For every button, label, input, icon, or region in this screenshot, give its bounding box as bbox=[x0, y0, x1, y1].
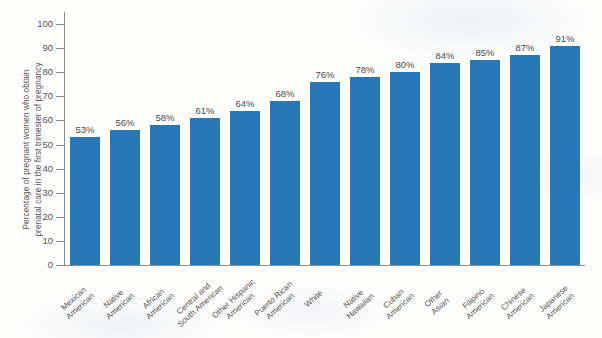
bar-value-label: 80% bbox=[395, 59, 414, 70]
bar[interactable] bbox=[230, 111, 260, 265]
bar-group[interactable]: 91% bbox=[550, 12, 580, 265]
y-tick-label: 100 bbox=[37, 18, 53, 29]
y-tick-label: 30 bbox=[42, 187, 53, 198]
x-axis-line bbox=[64, 265, 585, 266]
y-tick-label: 40 bbox=[42, 163, 53, 174]
bar-value-label: 85% bbox=[475, 47, 494, 58]
y-tick-label: 90 bbox=[42, 42, 53, 53]
y-tick-label: 80 bbox=[42, 66, 53, 77]
bar-group[interactable]: 85% bbox=[470, 12, 500, 265]
plot-area: 0102030405060708090100 53%56%58%61%64%68… bbox=[65, 12, 585, 265]
bar-group[interactable]: 64% bbox=[230, 12, 260, 265]
y-tick-mark bbox=[56, 72, 65, 73]
bar-group[interactable]: 80% bbox=[390, 12, 420, 265]
y-tick-label: 60 bbox=[42, 114, 53, 125]
y-tick-label: 70 bbox=[42, 90, 53, 101]
bar[interactable] bbox=[150, 125, 180, 265]
bar-group[interactable]: 58% bbox=[150, 12, 180, 265]
bar-value-label: 84% bbox=[435, 50, 454, 61]
y-tick-label: 20 bbox=[42, 211, 53, 222]
bar-value-label: 58% bbox=[155, 112, 174, 123]
y-tick-mark bbox=[56, 241, 65, 242]
y-tick-mark bbox=[56, 96, 65, 97]
y-tick-mark bbox=[56, 217, 65, 218]
bar-value-label: 56% bbox=[115, 117, 134, 128]
bar[interactable] bbox=[310, 82, 340, 265]
bar[interactable] bbox=[70, 137, 100, 265]
bar[interactable] bbox=[470, 60, 500, 265]
x-axis-category-labels: Mexican AmericanNative AmericanAfrican A… bbox=[65, 268, 585, 338]
bar[interactable] bbox=[270, 101, 300, 265]
bar-value-label: 87% bbox=[515, 42, 534, 53]
bar[interactable] bbox=[190, 118, 220, 265]
bar-value-label: 68% bbox=[275, 88, 294, 99]
bar[interactable] bbox=[110, 130, 140, 265]
bar[interactable] bbox=[350, 77, 380, 265]
bar[interactable] bbox=[430, 63, 460, 265]
bar-value-label: 53% bbox=[75, 124, 94, 135]
bar[interactable] bbox=[510, 55, 540, 265]
y-tick-label: 0 bbox=[48, 259, 53, 270]
bar-value-label: 64% bbox=[235, 98, 254, 109]
y-tick-mark bbox=[56, 145, 65, 146]
bar-value-label: 91% bbox=[555, 33, 574, 44]
bar-value-label: 61% bbox=[195, 105, 214, 116]
bar-group[interactable]: 68% bbox=[270, 12, 300, 265]
bar-group[interactable]: 76% bbox=[310, 12, 340, 265]
bar-group[interactable]: 78% bbox=[350, 12, 380, 265]
y-tick-label: 10 bbox=[42, 235, 53, 246]
y-tick-mark bbox=[56, 24, 65, 25]
bar-chart-figure: Percentage of pregnant women who obtain … bbox=[0, 0, 602, 338]
bar-group[interactable]: 53% bbox=[70, 12, 100, 265]
y-tick-mark bbox=[56, 48, 65, 49]
bar-group[interactable]: 87% bbox=[510, 12, 540, 265]
bar[interactable] bbox=[550, 46, 580, 265]
y-tick-label: 50 bbox=[42, 139, 53, 150]
bar-group[interactable]: 61% bbox=[190, 12, 220, 265]
bar[interactable] bbox=[390, 72, 420, 265]
y-axis-title: Percentage of pregnant women who obtain … bbox=[21, 25, 44, 275]
bar-group[interactable]: 56% bbox=[110, 12, 140, 265]
bar-value-label: 78% bbox=[355, 64, 374, 75]
bar-value-label: 76% bbox=[315, 69, 334, 80]
bar-group[interactable]: 84% bbox=[430, 12, 460, 265]
y-tick-mark bbox=[56, 265, 65, 266]
y-tick-mark bbox=[56, 120, 65, 121]
y-tick-mark bbox=[56, 193, 65, 194]
y-tick-mark bbox=[56, 169, 65, 170]
